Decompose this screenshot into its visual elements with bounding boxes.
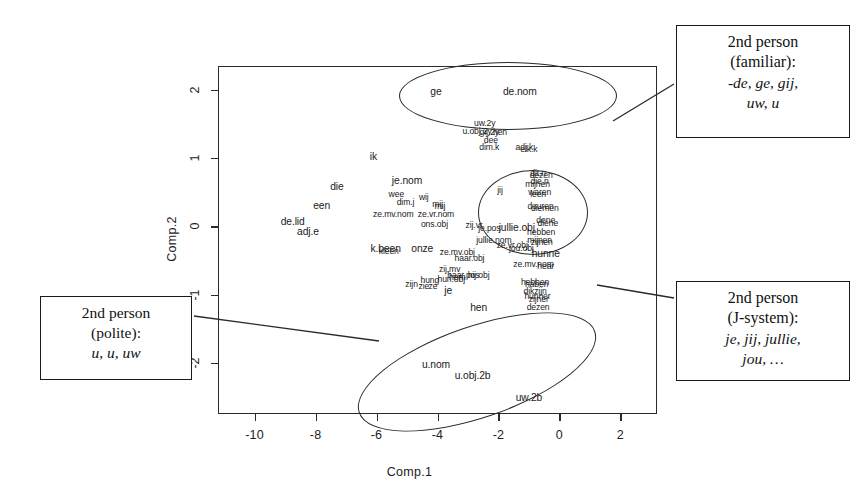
x-tick-label: 0 bbox=[556, 428, 563, 442]
x-tick-label: 2 bbox=[617, 428, 624, 442]
y-tick-mark bbox=[211, 226, 218, 227]
annotation-familiar-forms2: uw, u bbox=[685, 93, 841, 113]
y-tick-mark bbox=[211, 158, 218, 159]
data-point-label: haar.obj bbox=[455, 254, 485, 263]
x-tick-mark bbox=[620, 414, 621, 421]
annotation-jsystem-line2: (J-system): bbox=[685, 308, 841, 328]
data-point-label: ze.mv.nom bbox=[373, 210, 414, 219]
cluster-ellipse-familiar bbox=[399, 62, 617, 130]
data-point-label: ons.obj bbox=[421, 219, 448, 228]
annotation-familiar-line1: 2nd person bbox=[685, 32, 841, 52]
cluster-ellipse-jsystem bbox=[478, 170, 588, 255]
annotation-polite-line1: 2nd person bbox=[49, 303, 183, 323]
data-point-label: kleen bbox=[379, 247, 399, 256]
annotation-jsystem-forms1: je, jij, jullie, bbox=[685, 329, 841, 349]
annotation-box-familiar: 2nd person (familiar): -de, ge, gij, uw,… bbox=[676, 25, 850, 138]
annotation-polite-line2: (polite): bbox=[49, 323, 183, 343]
annotation-box-polite: 2nd person (polite): u, u, uw bbox=[40, 296, 192, 380]
x-tick-mark bbox=[498, 414, 499, 421]
y-axis-title: Comp.2 bbox=[165, 199, 179, 279]
data-point-label: ze bbox=[428, 282, 437, 291]
annotation-polite-forms1: u, u, uw bbox=[49, 343, 183, 363]
x-tick-label: -2 bbox=[493, 428, 505, 442]
data-point-label: ze.vr.nom bbox=[418, 210, 454, 219]
x-tick-label: -6 bbox=[371, 428, 383, 442]
data-point-label: dim.k bbox=[479, 142, 499, 151]
data-point-label: dezen bbox=[527, 303, 550, 312]
data-point-label: hear bbox=[537, 262, 554, 271]
data-point-label: ik bbox=[370, 152, 377, 162]
data-point-label: je.nom bbox=[392, 176, 422, 186]
annotation-familiar-line2: (familiar): bbox=[685, 52, 841, 72]
x-tick-mark bbox=[316, 414, 317, 421]
data-point-label: dim.j bbox=[397, 197, 415, 206]
y-tick-mark bbox=[211, 363, 218, 364]
annotation-jsystem-line1: 2nd person bbox=[685, 288, 841, 308]
data-point-label: die bbox=[330, 182, 343, 192]
y-tick-mark bbox=[211, 90, 218, 91]
x-tick-mark bbox=[255, 414, 256, 421]
data-point-label: elk.k bbox=[520, 145, 537, 154]
data-point-label: hem bbox=[449, 273, 465, 282]
annotation-jsystem-forms2: jou, … bbox=[685, 349, 841, 369]
data-point-label: je bbox=[444, 286, 452, 296]
annotation-box-jsystem: 2nd person (J-system): je, jij, jullie, … bbox=[676, 281, 850, 381]
data-point-label: onze bbox=[411, 244, 433, 254]
data-point-label: zijn bbox=[405, 280, 418, 289]
y-tick-label: 0 bbox=[188, 213, 202, 239]
figure-canvas: { "chart_data": { "type": "scatter", "ti… bbox=[0, 0, 855, 503]
annotation-familiar-forms1: -de, ge, gij, bbox=[685, 73, 841, 93]
x-axis-title: Comp.1 bbox=[0, 465, 837, 479]
data-point-label: hij.obj bbox=[468, 271, 490, 280]
y-tick-label: 1 bbox=[188, 145, 202, 171]
x-tick-mark bbox=[559, 414, 560, 421]
data-point-label: hen bbox=[470, 303, 487, 313]
x-tick-label: -4 bbox=[432, 428, 444, 442]
y-tick-mark bbox=[211, 295, 218, 296]
x-tick-label: -10 bbox=[245, 428, 264, 442]
data-point-label: een bbox=[313, 201, 330, 211]
x-tick-label: -8 bbox=[310, 428, 322, 442]
y-tick-label: 2 bbox=[188, 77, 202, 103]
data-point-label: adj.e bbox=[297, 227, 319, 237]
data-point-label: wij bbox=[419, 193, 429, 202]
